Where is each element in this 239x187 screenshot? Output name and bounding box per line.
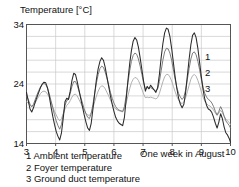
legend-item-1: 1 Ambient temperature xyxy=(26,150,140,162)
legend-item-3: 3 Ground duct temperature xyxy=(26,173,140,185)
legend: 1 Ambient temperature 2 Foyer temperatur… xyxy=(26,150,140,185)
curve-tag-2: 2 xyxy=(205,68,210,78)
x-axis-caption: One week in August xyxy=(140,148,225,159)
curve-tag-1: 1 xyxy=(205,52,210,62)
legend-item-2: 2 Foyer temperature xyxy=(26,162,140,174)
curve-tag-3: 3 xyxy=(205,84,210,94)
x-tick-label: 10 xyxy=(225,147,236,157)
temperature-chart: Temperature [°C] 342414 345678910 One we… xyxy=(0,0,239,187)
